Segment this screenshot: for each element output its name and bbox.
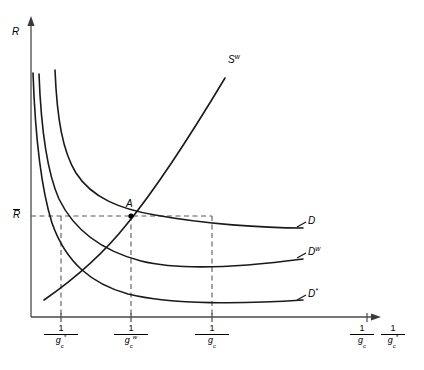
economics-supply-demand-figure: R R A Sw D Dw D* 1 gc* 1 gcw 1 gc 1 gc 1… [0,0,424,370]
curve-label-demand-star: D* [308,289,318,299]
tick-label-gc-star-sup: * [64,334,66,340]
x-axis-label-gc-denominator: gc [350,334,374,347]
curve-demand [55,70,303,228]
tick-label-gc-sub: c [213,343,216,349]
tick-label-gc-w-sub: c [130,343,133,349]
y-axis-label: R [12,27,19,37]
tick-label-gc-w-denominator: gcw [114,334,148,347]
y-axis-arrowhead [27,16,34,26]
curve-label-demand-world: Dw [308,247,320,257]
curve-label-supply-world-base: S [228,54,235,65]
leader-demand-world [297,253,306,258]
x-axis-label-gc-sub: c [363,343,366,349]
x-axis-label-part-gc: 1 gc [350,324,374,347]
tick-label-gc-star: 1 gc* [44,324,78,347]
curve-label-demand: D [308,216,315,226]
axes-group [27,16,381,321]
point-marker-A [128,213,133,218]
x-axis-label-gc-star-denominator: gc* [381,334,405,347]
point-label-A: A [126,199,133,209]
curves-group [33,70,303,303]
x-axis-label-part-gc-star: 1 gc* [381,324,405,347]
tick-label-gc-star-numerator: 1 [44,324,78,334]
x-axis-label-gc-star-sup: * [396,334,398,340]
curve-label-demand-world-sup: w [315,245,320,252]
curve-label-supply-world: Sw [228,55,240,65]
curve-demand-star [33,73,303,303]
leader-demand-star [297,295,306,300]
tick-label-gc-numerator: 1 [195,324,229,334]
y-value-overbar-text: R [13,210,20,220]
curve-demand-world [39,74,303,267]
x-axis-label: 1 gc 1 gc* [350,324,405,347]
y-value-label-Rbar: R [13,210,20,220]
tick-label-gc-denominator: gc [195,334,229,347]
figure-canvas [0,0,424,370]
label-leaders [297,222,306,300]
leader-demand [297,222,306,227]
curve-label-demand-base: D [308,215,315,226]
curve-label-supply-world-sup: w [235,53,240,60]
x-axis-arrowhead [371,313,381,320]
tick-label-gc: 1 gc [195,324,229,347]
x-axis-label-gc-numerator: 1 [350,324,374,334]
tick-label-gc-w: 1 gcw [114,324,148,347]
tick-label-gc-star-sub: c [61,343,64,349]
x-axis-label-gc-star-numerator: 1 [381,324,405,334]
tick-label-gc-w-sup: w [133,334,137,340]
x-axis-label-gc-star-sub: c [393,343,396,349]
curve-label-demand-star-sup: * [315,287,318,294]
tick-label-gc-star-denominator: gc* [44,334,78,347]
tick-label-gc-w-numerator: 1 [114,324,148,334]
